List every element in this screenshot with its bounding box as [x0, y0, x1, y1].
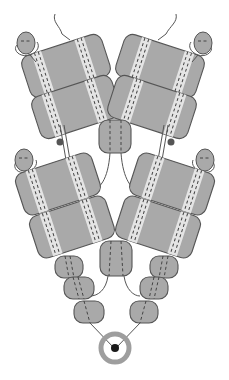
- top-right-wire: [158, 14, 176, 40]
- right-segment-2: [140, 277, 168, 299]
- left-bead: [57, 139, 64, 146]
- center-lower-right-wire: [124, 276, 140, 296]
- center-lower-block: [100, 241, 132, 276]
- left-segment-3: [74, 301, 104, 323]
- v-structure-diagram: [0, 0, 229, 380]
- hub-dot: [111, 344, 119, 352]
- center-upper-block: [99, 120, 131, 153]
- top-left-wire: [54, 14, 70, 40]
- hub-ring: [101, 334, 129, 362]
- right-bead: [168, 139, 175, 146]
- diagram-canvas: [0, 0, 229, 380]
- left-segment-2: [64, 277, 94, 299]
- left-segment-1: [55, 256, 83, 278]
- right-segment-1: [150, 256, 178, 278]
- right-segment-3: [130, 301, 158, 323]
